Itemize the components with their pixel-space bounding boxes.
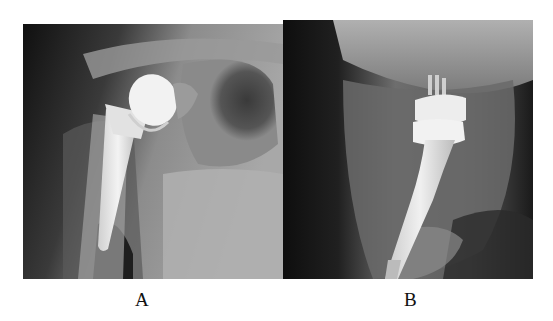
- xray-image-b: [283, 20, 533, 279]
- xray-panel-b: [283, 20, 533, 279]
- xray-image-a: [23, 24, 283, 279]
- panel-label-b: B: [404, 290, 417, 309]
- xray-panel-a: [23, 24, 283, 279]
- panel-label-a: A: [135, 290, 149, 309]
